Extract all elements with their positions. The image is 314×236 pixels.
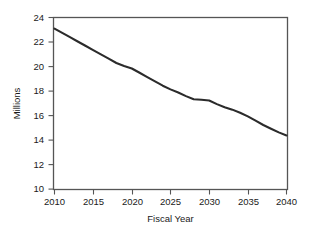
y-tick-label: 24 xyxy=(33,12,44,23)
y-tick-label: 22 xyxy=(33,36,44,47)
y-tick-label: 20 xyxy=(33,61,44,72)
y-tick-label: 10 xyxy=(33,183,44,194)
y-tick-label: 18 xyxy=(33,85,44,96)
x-tick-label: 2035 xyxy=(238,196,259,207)
y-axis-title: Millions xyxy=(11,87,22,119)
line-chart-figure: 24 22 20 18 16 14 12 10 2010 2015 2020 2… xyxy=(0,0,314,236)
x-tick-label: 2020 xyxy=(122,196,143,207)
x-tick-label: 2015 xyxy=(83,196,104,207)
y-tick-label: 12 xyxy=(33,159,44,170)
x-tick-label: 2010 xyxy=(44,196,65,207)
y-tick-label: 16 xyxy=(33,110,44,121)
y-tick-label: 14 xyxy=(33,134,44,145)
x-tick-label: 2025 xyxy=(160,196,181,207)
x-tick-label: 2030 xyxy=(199,196,220,207)
chart-canvas: 24 22 20 18 16 14 12 10 2010 2015 2020 2… xyxy=(0,0,314,236)
x-axis-title: Fiscal Year xyxy=(147,213,193,224)
x-tick-label: 2040 xyxy=(276,196,297,207)
